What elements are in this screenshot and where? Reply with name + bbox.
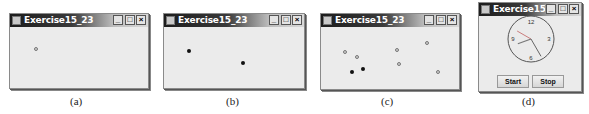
title-bar[interactable]: Exercise15_23 _ □ × <box>10 14 148 27</box>
point-marker <box>425 41 429 45</box>
point-marker <box>343 50 347 54</box>
clock-label-3: 3 <box>547 36 551 42</box>
window-a: Exercise15_23 _ □ × <box>9 13 149 89</box>
window-title: Exercise15_23 <box>178 14 247 27</box>
caption-b: (b) <box>226 95 239 107</box>
window-title: Exercise15_23 <box>24 14 93 27</box>
title-bar[interactable]: Exercise15_24 _ □ × <box>479 3 581 16</box>
maximize-button[interactable]: □ <box>436 15 446 25</box>
title-bar[interactable]: Exercise15_23 _ □ × <box>321 14 459 27</box>
minimize-button[interactable]: _ <box>424 15 434 25</box>
point-marker <box>361 67 365 71</box>
close-button[interactable]: × <box>447 15 457 25</box>
caption-a: (a) <box>70 95 82 107</box>
caption-c: (c) <box>381 95 393 107</box>
close-button[interactable]: × <box>292 15 302 25</box>
maximize-button[interactable]: □ <box>558 4 568 14</box>
clock-label-12: 12 <box>528 19 535 25</box>
java-app-icon <box>166 16 175 25</box>
java-app-icon <box>323 16 332 25</box>
point-marker <box>355 55 359 59</box>
point-marker <box>436 70 440 74</box>
point-marker <box>34 47 38 51</box>
window-b: Exercise15_23 _ □ × <box>163 13 305 89</box>
caption-d: (d) <box>522 95 535 107</box>
minimize-button[interactable]: _ <box>269 15 279 25</box>
second-hand <box>517 31 531 39</box>
maximize-button[interactable]: □ <box>125 15 135 25</box>
point-marker <box>187 49 191 53</box>
java-app-icon <box>12 16 21 25</box>
point-marker <box>395 48 399 52</box>
window-title: Exercise15_23 <box>335 14 404 27</box>
java-app-icon <box>481 5 490 14</box>
clock-label-6: 6 <box>529 55 533 61</box>
start-button[interactable]: Start <box>497 75 529 88</box>
point-marker <box>397 62 401 66</box>
window-d: Exercise15_24 _ □ × 12 3 6 9 Start Stop <box>478 2 582 92</box>
minute-hand <box>531 39 541 56</box>
point-canvas[interactable] <box>164 27 304 88</box>
close-button[interactable]: × <box>136 15 146 25</box>
stop-button[interactable]: Stop <box>532 75 564 88</box>
point-canvas[interactable] <box>321 27 459 89</box>
clock-label-9: 9 <box>511 36 515 42</box>
minimize-button[interactable]: _ <box>113 15 123 25</box>
window-title: Exercise15_24 <box>493 3 545 16</box>
point-marker <box>350 70 354 74</box>
clock-panel: 12 3 6 9 Start Stop <box>479 16 581 91</box>
title-bar[interactable]: Exercise15_23 _ □ × <box>164 14 304 27</box>
minimize-button[interactable]: _ <box>546 4 556 14</box>
window-c: Exercise15_23 _ □ × <box>320 13 460 90</box>
close-button[interactable]: × <box>569 4 579 14</box>
clock-face: 12 3 6 9 <box>479 16 581 72</box>
point-canvas[interactable] <box>10 27 148 88</box>
maximize-button[interactable]: □ <box>281 15 291 25</box>
hour-hand <box>518 39 531 44</box>
point-marker <box>241 61 245 65</box>
